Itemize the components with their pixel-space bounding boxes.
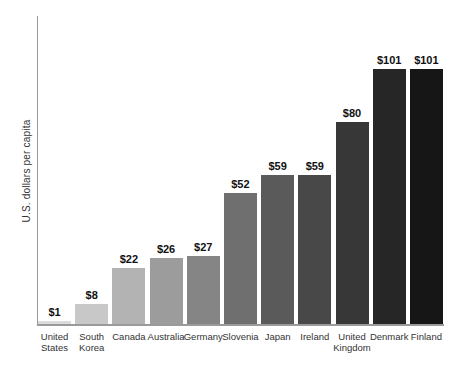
bar-slot: $27 [187, 14, 220, 324]
bar-value-label: $59 [306, 160, 324, 172]
bar-value-label: $80 [343, 107, 361, 119]
bar-slot: $101 [373, 14, 406, 324]
bar-value-label: $101 [377, 54, 401, 66]
y-axis-title: U.S. dollars per capita [21, 120, 32, 223]
category-label: South Korea [79, 331, 104, 353]
bar-slot: $26 [150, 14, 183, 324]
category-label: United Kingdom [333, 331, 371, 353]
bar [373, 69, 406, 324]
category-label: Canada [112, 331, 145, 342]
bar-slot: $80 [336, 14, 369, 324]
category-label: Ireland [300, 331, 329, 342]
category-label: Germany [184, 331, 223, 342]
bar-value-label: $1 [48, 306, 60, 318]
category-label: United States [41, 331, 68, 353]
bar-chart: U.S. dollars per capita $1$8$22$26$27$52… [0, 0, 465, 369]
bar-value-label: $26 [157, 243, 175, 255]
category-slot: United States [38, 331, 71, 355]
bar-slot: $22 [112, 14, 145, 324]
bar-slot: $59 [298, 14, 331, 324]
bar-value-label: $52 [231, 178, 249, 190]
bar [336, 122, 369, 324]
category-slot: Ireland [298, 331, 331, 355]
category-slot: Slovenia [224, 331, 257, 355]
bar [112, 268, 145, 324]
category-axis: United StatesSouth KoreaCanadaAustraliaG… [38, 331, 443, 355]
category-slot: Germany [187, 331, 220, 355]
bar-slot: $101 [410, 14, 443, 324]
category-slot: United Kingdom [336, 331, 369, 355]
bar-value-label: $101 [414, 54, 438, 66]
category-slot: Japan [261, 331, 294, 355]
category-label: Denmark [370, 331, 409, 342]
x-axis-line [37, 324, 444, 326]
category-label: Slovenia [222, 331, 258, 342]
bar [150, 258, 183, 324]
bar-value-label: $22 [120, 253, 138, 265]
category-slot: Finland [410, 331, 443, 355]
bar-value-label: $27 [194, 241, 212, 253]
bar-value-label: $59 [268, 160, 286, 172]
category-slot: Canada [112, 331, 145, 355]
bar [410, 69, 443, 324]
bar [224, 193, 257, 324]
category-slot: Denmark [373, 331, 406, 355]
category-label: Finland [411, 331, 442, 342]
bar [261, 175, 294, 324]
bar-slot: $59 [261, 14, 294, 324]
bar-value-label: $8 [86, 289, 98, 301]
category-label: Japan [265, 331, 291, 342]
bar-slot: $1 [38, 14, 71, 324]
bar [298, 175, 331, 324]
bar-slot: $8 [75, 14, 108, 324]
category-label: Australia [148, 331, 185, 342]
bar [75, 304, 108, 324]
bar-slot: $52 [224, 14, 257, 324]
category-slot: South Korea [75, 331, 108, 355]
category-slot: Australia [150, 331, 183, 355]
bar [187, 256, 220, 324]
plot-area: $1$8$22$26$27$52$59$59$80$101$101 [38, 14, 443, 324]
